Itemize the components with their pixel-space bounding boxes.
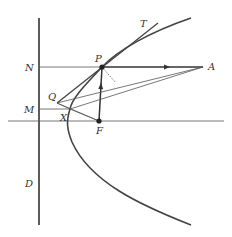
tangent-line <box>57 23 158 103</box>
arrow-P-A-icon <box>164 65 170 70</box>
label-A: A <box>207 61 215 72</box>
label-D: D <box>24 178 33 189</box>
parabola-curve <box>68 18 191 225</box>
arrow-F-P-icon <box>98 83 103 90</box>
label-T: T <box>140 18 148 29</box>
ray-F-P <box>99 67 102 121</box>
point-P <box>99 64 104 69</box>
label-X: X <box>59 112 68 123</box>
line-X-A <box>70 67 203 109</box>
point-F <box>96 118 101 123</box>
label-N: N <box>24 62 35 73</box>
label-P: P <box>94 53 102 64</box>
label-Q: Q <box>48 91 56 102</box>
parabola-diagram: T P N A Q M X F D <box>0 0 232 237</box>
normal-dotted-line <box>102 67 115 82</box>
label-F: F <box>95 125 104 136</box>
label-M: M <box>23 104 35 115</box>
